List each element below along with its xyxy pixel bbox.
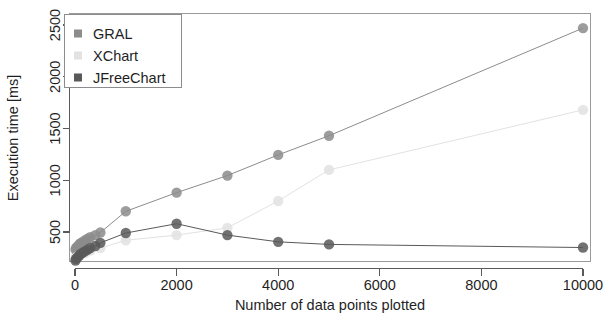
legend-label-xchart: XChart: [93, 48, 138, 64]
y-tick-label: 1500: [47, 112, 63, 144]
legend-label-gral: GRAL: [93, 26, 133, 42]
legend-swatch-xchart: [74, 52, 82, 60]
chart-legend: GRALXChartJFreeChart: [65, 15, 182, 88]
x-tick-label: 6000: [364, 277, 396, 293]
data-point-marker: [324, 131, 334, 141]
data-point-marker: [121, 206, 131, 216]
data-point-marker: [95, 227, 105, 237]
data-point-marker: [121, 228, 131, 238]
legend-swatch-jfreechart: [74, 74, 82, 82]
x-axis: 0200040006000800010000: [71, 269, 603, 293]
data-point-marker: [324, 239, 334, 249]
y-tick-label: 500: [47, 220, 63, 244]
legend-label-jfreechart: JFreeChart: [93, 70, 166, 86]
chart-figure: 5001000150020002500 02000400060008000100…: [0, 0, 606, 317]
data-point-marker: [273, 237, 283, 247]
data-point-marker: [578, 242, 588, 252]
data-point-marker: [222, 170, 232, 180]
y-tick-label: 2000: [47, 61, 63, 93]
execution-time-scatter-chart: 5001000150020002500 02000400060008000100…: [0, 0, 606, 317]
data-point-marker: [324, 165, 334, 175]
x-axis-title: Number of data points plotted: [235, 297, 425, 313]
x-tick-label: 2000: [160, 277, 192, 293]
data-point-marker: [222, 230, 232, 240]
x-tick-label: 0: [71, 277, 79, 293]
y-axis-title: Execution time [ms]: [5, 75, 21, 202]
x-tick-label: 8000: [465, 277, 497, 293]
data-point-marker: [578, 23, 588, 33]
data-point-marker: [171, 230, 181, 240]
y-tick-label: 2500: [47, 9, 63, 41]
data-point-marker: [578, 105, 588, 115]
data-point-marker: [273, 196, 283, 206]
series-jfreechart: [70, 219, 588, 266]
data-point-marker: [95, 238, 105, 248]
data-point-marker: [171, 219, 181, 229]
x-tick-label: 10000: [563, 277, 603, 293]
data-point-marker: [273, 150, 283, 160]
x-tick-label: 4000: [262, 277, 294, 293]
legend-swatch-gral: [74, 30, 82, 38]
y-tick-label: 1000: [47, 164, 63, 196]
data-point-marker: [171, 187, 181, 197]
